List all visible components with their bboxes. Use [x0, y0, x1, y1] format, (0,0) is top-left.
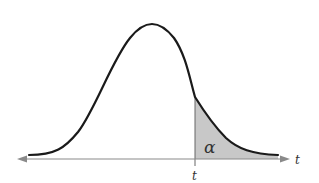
axis-label: t: [295, 153, 300, 167]
critical-value-label: t: [192, 169, 197, 183]
density-curve: [29, 24, 278, 155]
area-alpha-label: α: [204, 137, 216, 157]
axis-right-arrow-icon: [280, 156, 290, 163]
t-distribution-diagram: α t t: [0, 0, 319, 183]
axis-left-arrow-icon: [17, 156, 27, 163]
